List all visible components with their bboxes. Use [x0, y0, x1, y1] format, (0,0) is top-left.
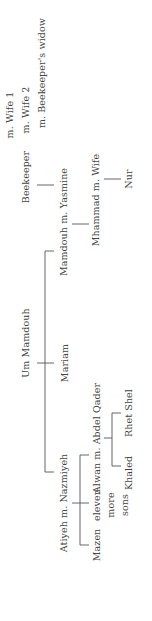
- node-khaled: Khaled: [124, 456, 134, 490]
- node-mamdouh: Mamdouh m. Yasmine: [59, 168, 69, 276]
- node-mariam: Mariam: [60, 344, 70, 382]
- eleven-more-sons-label: eleven more sons: [90, 488, 132, 522]
- node-wife-1: m. Wife 1: [5, 92, 15, 139]
- node-beekeepers-widow: m. Beekeeper's widow: [37, 18, 47, 128]
- node-alwan: Alwan m. Abdel Qader: [92, 383, 102, 493]
- node-eleven-more-sons: eleven more sons: [90, 488, 132, 522]
- node-rhet-shel: Rhet Shel: [124, 389, 134, 437]
- node-nur: Nur: [124, 169, 134, 188]
- node-atiyeh: Atiyeh m. Nazmiyeh: [59, 454, 69, 553]
- node-um-mamdouh: Um Mamdouh: [21, 308, 31, 377]
- node-wife-2: m. Wife 2: [21, 87, 31, 134]
- node-mazen: Mazen: [92, 529, 102, 562]
- node-mhammad: Mhammad m. Wife: [91, 154, 101, 247]
- node-beekeeper: Beekeeper: [21, 151, 31, 203]
